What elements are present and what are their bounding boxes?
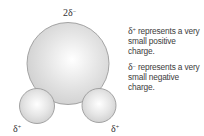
hydrogen-atom-right [82, 89, 116, 123]
hydrogen-left-charge-label: δ+ [13, 124, 21, 134]
delta-symbol: δ [13, 123, 18, 134]
legend-positive: δ+ represents a very small positive char… [128, 26, 204, 57]
legend-negative: δ− represents a very small negative char… [128, 62, 204, 93]
delta-symbol: δ [128, 25, 133, 36]
delta-symbol: δ [68, 7, 73, 18]
charge-sign: + [116, 124, 119, 130]
legend: δ+ represents a very small positive char… [128, 26, 204, 97]
hydrogen-atom-left [20, 89, 55, 124]
legend-positive-text: represents a very small positive charge. [128, 26, 200, 56]
hydrogen-right-charge-label: δ+ [111, 124, 119, 134]
charge-sign: − [133, 63, 136, 69]
oxygen-charge-label: 2δ− [63, 8, 76, 18]
delta-symbol: δ [111, 123, 116, 134]
delta-symbol: δ [128, 61, 133, 72]
charge-sign: + [133, 27, 136, 33]
positive-delta-symbol: δ+ [128, 25, 136, 36]
negative-delta-symbol: δ− [128, 61, 136, 72]
charge-sign: − [73, 8, 76, 14]
legend-negative-text: represents a very small negative charge. [128, 62, 200, 92]
charge-sign: + [18, 124, 21, 130]
